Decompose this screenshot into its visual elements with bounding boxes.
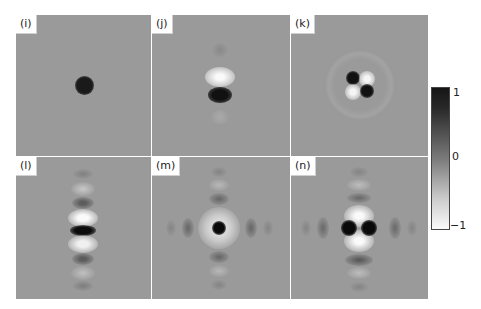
fringe-dark [317, 217, 329, 239]
fringe-dark [182, 218, 194, 238]
fringe-dark [73, 281, 93, 291]
colorbar-tick-max: 1 [453, 86, 460, 99]
faint-ring [324, 49, 396, 121]
fringe-bright [347, 179, 371, 191]
panel-j: (j) [152, 15, 290, 156]
panel-l: (l) [16, 157, 151, 299]
fringe-dark [263, 220, 273, 236]
fringe-dark [209, 193, 229, 205]
dark-lobe [208, 87, 232, 103]
fringe-dark [211, 167, 227, 177]
bright-lobe [205, 67, 235, 87]
fringe-dark [209, 251, 229, 263]
colorbar-tick-min: −1 [450, 219, 466, 232]
fringe-dark [72, 197, 94, 209]
fringe-bright [71, 266, 95, 280]
panel-label: (j) [152, 15, 173, 34]
fringe-dark [345, 254, 373, 266]
fringe-dark [211, 280, 227, 290]
fringe-dark [73, 169, 93, 179]
fringe-dark [407, 220, 417, 236]
panel-n: (n) [291, 157, 428, 299]
panel-label: (k) [291, 15, 315, 34]
figure-grid: (i) (j) (k) (l) [16, 15, 428, 299]
fringe-dark [350, 167, 368, 177]
panel-label: (i) [16, 15, 37, 34]
panel-label: (l) [16, 157, 37, 176]
dark-spot [75, 76, 94, 95]
faint-lobe [210, 110, 230, 124]
center-dark [212, 221, 226, 235]
colorbar-tick-zero: 0 [452, 150, 459, 163]
fringe-dark [350, 282, 368, 292]
panel-i: (i) [16, 15, 151, 156]
fringe-dark [347, 193, 371, 203]
panel-label: (n) [291, 157, 316, 176]
fringe-bright [209, 265, 229, 277]
fringe-dark [166, 220, 176, 236]
fringe-dark [245, 218, 257, 238]
panel-k: (k) [291, 15, 428, 156]
fringe-bright [68, 235, 98, 253]
fringe-bright [71, 182, 95, 196]
colorbar [431, 87, 450, 230]
dark-spot [361, 220, 377, 236]
fringe-dark [72, 253, 94, 265]
fringe-bright [209, 179, 229, 191]
panel-m: (m) [152, 157, 290, 299]
panel-label: (m) [152, 157, 180, 176]
fringe-bright [347, 267, 371, 279]
fringe-dark [301, 220, 311, 236]
faint-lobe [212, 43, 228, 57]
dark-spot [341, 220, 357, 236]
fringe-dark [389, 217, 401, 239]
